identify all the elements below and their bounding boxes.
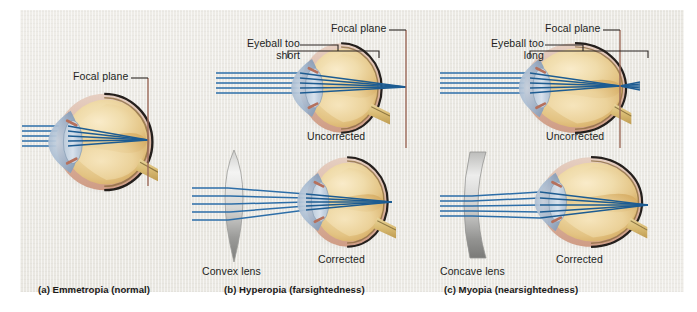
concave-lens-label: Concave lens (440, 266, 505, 278)
panel-c-corrected-diagram (440, 152, 648, 258)
panel-b-corrected-label: Corrected (318, 254, 365, 266)
panel-c-corrected-label: Corrected (556, 254, 603, 266)
panel-c-eyeball-too-long-line1: Eyeball too (491, 37, 544, 49)
panel-b-corrected-diagram (192, 150, 396, 262)
panel-b-uncorrected-incoming-rays (216, 73, 300, 93)
panel-b-focal-plane-label: Focal plane (331, 23, 386, 35)
panel-a-emmetropia (22, 78, 158, 195)
panel-b-eyeball-too-short-line1: Eyeball too (247, 37, 300, 49)
panel-c-uncorrected-label: Uncorrected (546, 131, 604, 143)
panel-a-caption: (a) Emmetropia (normal) (38, 285, 150, 296)
panel-b-hyperopia (192, 30, 406, 262)
panel-b-eyeball-too-short-line2: short (276, 49, 300, 61)
refractive-errors-figure: Focal plane (a) Emmetropia (normal) Eyeb… (0, 0, 697, 312)
panel-c-eyeball-too-long-line2: long (524, 49, 544, 61)
panel-c-focal-plane-label: Focal plane (545, 23, 600, 35)
panel-b-eyeball-too-short-label: Eyeball too short (178, 38, 300, 62)
panel-a-focal-plane-label: Focal plane (73, 71, 128, 83)
panel-c-uncorrected-incoming-rays (440, 73, 530, 93)
convex-lens-label: Convex lens (202, 266, 261, 278)
panel-b-caption: (b) Hyperopia (farsightedness) (224, 285, 365, 296)
convex-lens-shape (225, 150, 243, 262)
concave-lens-shape (464, 152, 486, 258)
panel-c-myopia (440, 30, 648, 258)
panel-c-caption: (c) Myopia (nearsightedness) (444, 285, 578, 296)
panel-c-eyeball-too-long-label: Eyeball too long (424, 38, 544, 62)
panel-c-corrected-lens-rays (472, 192, 540, 218)
panel-a-eyeball (48, 94, 158, 195)
panel-b-uncorrected-label: Uncorrected (307, 131, 365, 143)
